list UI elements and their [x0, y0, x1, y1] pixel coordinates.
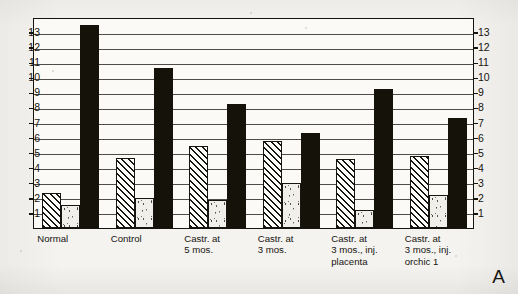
y-tick-mark-left-8 [29, 108, 34, 109]
y-tick-mark-right-8 [473, 108, 478, 109]
bar-hatched-4 [263, 141, 282, 228]
y-tick-mark-right-13 [473, 32, 478, 33]
bar-stippled-4 [282, 183, 301, 228]
page-background: NormalControlCastr. at 5 mos.Castr. at 3… [0, 0, 518, 294]
bar-group-4 [255, 19, 329, 228]
x-axis-label-6: Castr. at 3 mos., inj. orchic 1 [405, 233, 495, 267]
y-tick-mark-left-9 [29, 93, 34, 94]
y-tick-label-right-1: 1 [478, 208, 498, 219]
y-tick-mark-left-6 [29, 138, 34, 139]
scan-speck-5 [20, 250, 22, 252]
bar-group-6 [402, 19, 476, 228]
bar-hatched-6 [410, 156, 429, 228]
y-tick-label-right-8: 8 [478, 102, 498, 113]
bar-group-3 [181, 19, 255, 228]
y-tick-mark-left-3 [29, 183, 34, 184]
panel-letter: A [492, 266, 505, 288]
bar-solid-1 [80, 25, 99, 228]
y-tick-mark-left-2 [29, 198, 34, 199]
y-tick-label-right-7: 7 [478, 118, 498, 129]
bar-group-1 [34, 19, 108, 228]
y-tick-mark-left-4 [29, 168, 34, 169]
bar-group-2 [108, 19, 182, 228]
bar-solid-3 [227, 104, 246, 228]
bar-stippled-2 [135, 198, 154, 228]
y-tick-mark-right-11 [473, 63, 478, 64]
bar-solid-2 [154, 68, 173, 228]
y-tick-label-right-12: 12 [478, 42, 498, 53]
y-tick-label-right-6: 6 [478, 133, 498, 144]
y-tick-mark-right-3 [473, 183, 478, 184]
bar-hatched-3 [189, 146, 208, 228]
scan-speck-4 [455, 255, 457, 257]
y-tick-label-right-10: 10 [478, 72, 498, 83]
y-tick-mark-right-7 [473, 123, 478, 124]
scan-speck-1 [52, 70, 54, 72]
y-tick-label-right-2: 2 [478, 193, 498, 204]
y-tick-label-right-3: 3 [478, 178, 498, 189]
y-tick-mark-left-5 [29, 153, 34, 154]
y-tick-mark-left-7 [29, 123, 34, 124]
y-tick-label-right-5: 5 [478, 148, 498, 159]
bar-stippled-1 [61, 205, 80, 228]
y-tick-mark-right-1 [473, 213, 478, 214]
scan-speck-6 [250, 12, 252, 14]
bar-solid-4 [301, 133, 320, 228]
bar-stippled-6 [429, 195, 448, 228]
y-tick-mark-left-13 [29, 32, 34, 33]
y-tick-mark-left-1 [29, 213, 34, 214]
y-tick-label-right-4: 4 [478, 163, 498, 174]
scan-speck-2 [305, 27, 307, 29]
bar-hatched-2 [116, 158, 135, 228]
bar-stippled-3 [208, 200, 227, 228]
bar-solid-5 [374, 89, 393, 228]
bar-stippled-5 [355, 210, 374, 228]
y-tick-label-right-9: 9 [478, 87, 498, 98]
y-tick-label-right-13: 13 [478, 27, 498, 38]
y-tick-mark-right-5 [473, 153, 478, 154]
y-tick-mark-right-10 [473, 78, 478, 79]
y-tick-label-right-11: 11 [478, 57, 498, 68]
y-tick-mark-left-11 [29, 63, 34, 64]
y-tick-mark-left-10 [29, 78, 34, 79]
y-tick-mark-right-9 [473, 93, 478, 94]
chart-plot-frame [33, 18, 474, 229]
bar-group-5 [328, 19, 402, 228]
bar-hatched-5 [336, 159, 355, 228]
y-tick-mark-right-12 [473, 47, 478, 48]
scan-speck-3 [118, 205, 120, 207]
y-tick-mark-right-6 [473, 138, 478, 139]
plot-area [34, 19, 473, 228]
bar-solid-6 [448, 118, 467, 228]
y-tick-mark-right-4 [473, 168, 478, 169]
bar-hatched-1 [42, 193, 61, 228]
y-tick-mark-left-12 [29, 47, 34, 48]
y-tick-mark-right-2 [473, 198, 478, 199]
